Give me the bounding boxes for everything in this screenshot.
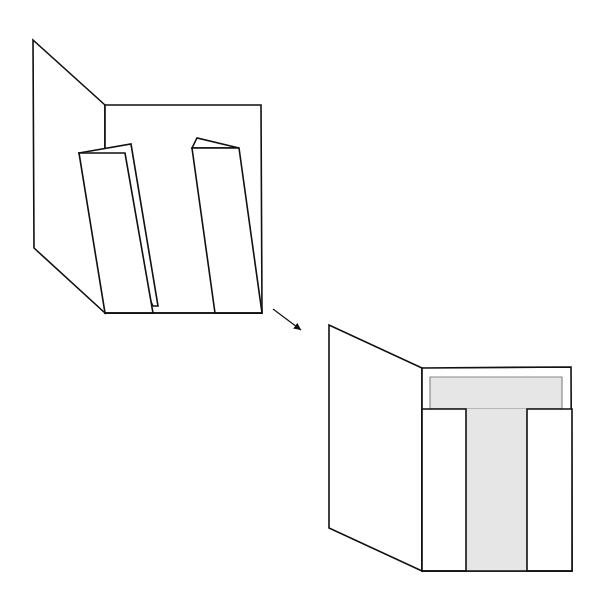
step-arrow-icon xyxy=(273,309,301,330)
step2-t-stem xyxy=(466,409,527,571)
step2-left-white-strip xyxy=(422,409,466,571)
step-2-t-shape xyxy=(329,325,572,571)
step2-right-white-strip xyxy=(527,409,572,571)
folding-diagram xyxy=(0,0,605,606)
step-1-folded-strips xyxy=(33,40,262,313)
step2-t-top xyxy=(430,377,562,409)
step2-left-panel xyxy=(329,325,422,571)
